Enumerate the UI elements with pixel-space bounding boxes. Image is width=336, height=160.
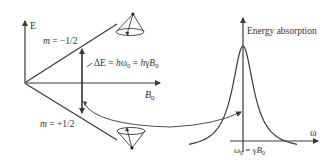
lower-precession-cone-icon: [117, 127, 145, 150]
upper-energy-level-line: [26, 24, 117, 82]
energy-axis-label: E: [30, 20, 36, 31]
upper-level-label: m = −1/2: [43, 36, 78, 46]
delta-e-leader: [87, 63, 92, 67]
absorption-axis-label: Energy absorption: [247, 26, 317, 36]
resonance-frequency-label: ω0 = γB0: [234, 145, 265, 156]
delta-e-label: ΔE = hω0 = hγB0: [94, 58, 158, 69]
absorption-plot: Energy absorption ω ω0 = γB0: [189, 18, 318, 156]
field-axis-label: B0: [145, 89, 155, 102]
energy-level-plot: E B0 m = −1/2 m = +1/2 ΔE = hω0 = hγB0: [25, 12, 241, 149]
lower-energy-level-line: [26, 84, 117, 140]
nmr-diagram: E B0 m = −1/2 m = +1/2 ΔE = hω0 = hγB0: [0, 0, 336, 160]
lower-level-label: m = +1/2: [40, 119, 75, 129]
upper-precession-cone-icon: [116, 12, 144, 36]
resonance-connector-arrow: [84, 103, 241, 127]
frequency-axis-label: ω: [310, 127, 317, 138]
